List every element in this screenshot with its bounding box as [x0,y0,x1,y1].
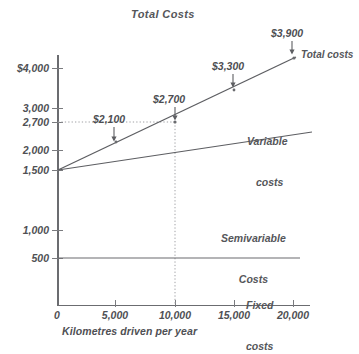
annotation-arrow-2100 [111,127,116,141]
annotation-arrow-3900 [289,41,294,55]
region-label-fixed-line1: Fixed [246,299,273,313]
region-label-fixed-costs: Fixed costs [246,272,273,354]
series-label-total-costs: Total costs [301,49,353,62]
annotation-label-2100: $2,100 [93,113,125,125]
annotation-label-2700: $2,700 [153,93,185,105]
data-point-2700 [173,120,176,123]
region-label-variable-line2: costs [247,176,287,190]
annotation-label-3900: $3,900 [271,27,303,39]
region-label-fixed-line2: costs [246,340,273,354]
region-label-variable-costs: Variable costs [247,108,287,217]
data-point-3300 [233,89,236,92]
x-axis-title: Kilometres driven per year [62,325,197,337]
region-label-variable-line1: Variable [247,135,287,149]
data-point-3900 [292,56,295,59]
annotation-label-3300: $3,300 [212,60,244,72]
region-label-semivariable-line1: Semivariable [221,232,286,246]
data-point-2100 [115,141,118,144]
